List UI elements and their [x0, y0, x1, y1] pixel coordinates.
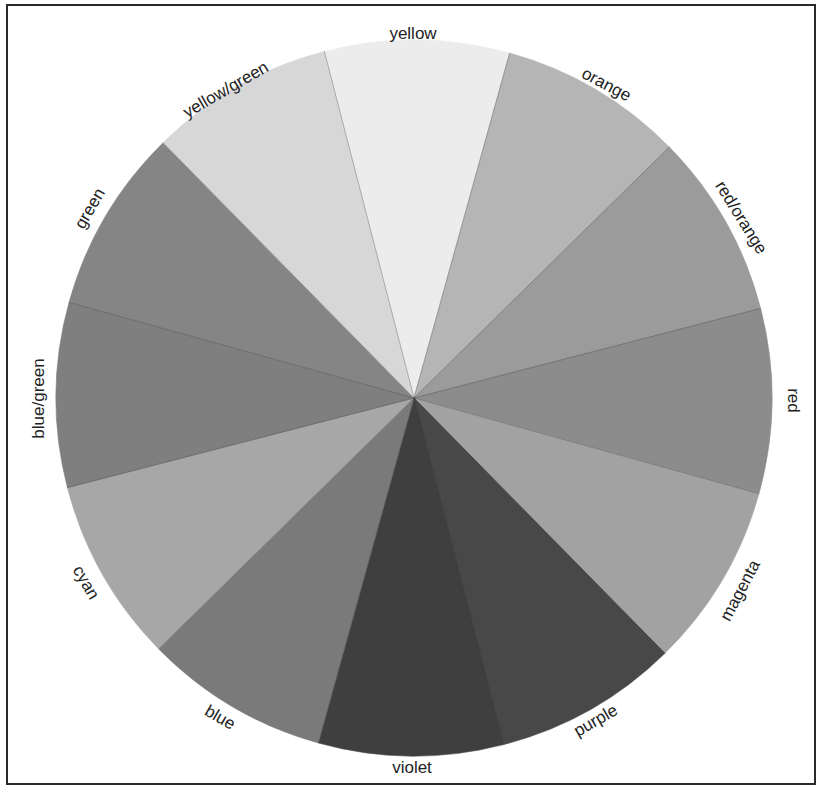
color-wheel	[0, 0, 825, 793]
label-blue-green: blue/green	[30, 358, 47, 438]
label-yellow: yellow	[389, 25, 436, 42]
label-violet: violet	[392, 759, 432, 776]
label-red: red	[784, 388, 801, 413]
